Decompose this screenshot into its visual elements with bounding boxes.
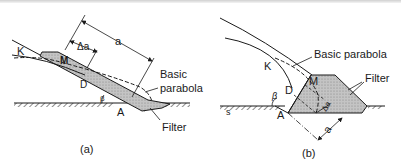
label-k-a: K	[17, 45, 25, 57]
label-dim-a-b: a	[320, 123, 334, 135]
label-beta-b: β	[271, 91, 277, 101]
phreatic-line-b	[225, 38, 292, 88]
label-beta-a: β	[100, 94, 105, 103]
label-dim-a-a: a	[115, 35, 122, 47]
caption-b: (b)	[302, 147, 315, 159]
label-filter-b: Filter	[365, 72, 390, 84]
label-m-b: M	[309, 75, 318, 87]
label-basic-a-2: parabola	[160, 82, 204, 94]
seepage-diagram: K M D A β Δa a Basic parabola Filter (a)	[0, 0, 401, 165]
label-basic-b: Basic parabola	[314, 48, 388, 60]
label-basic-a-1: Basic	[160, 68, 187, 80]
label-m-a: M	[60, 55, 68, 66]
panel-a: K M D A β Δa a Basic parabola Filter (a)	[12, 15, 204, 155]
label-a-point-a: A	[117, 106, 125, 118]
label-d-b: D	[285, 84, 293, 96]
label-k-b: K	[264, 60, 272, 72]
label-delta-a-a: Δa	[77, 41, 90, 52]
label-d-a: D	[80, 79, 87, 90]
label-filter-a: Filter	[162, 121, 187, 133]
panel-b: K M D A β s Δa a Basic parabola Filter (…	[220, 18, 390, 159]
label-a-point-b: A	[277, 109, 285, 121]
label-s-b: s	[226, 107, 231, 117]
caption-a: (a)	[80, 143, 93, 155]
